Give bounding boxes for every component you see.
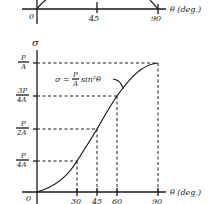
y-label-3P4A: 3P 4A [16, 87, 29, 104]
top-origin-label: 0 [29, 12, 34, 21]
top-panel: 0 45 90 θ (deg.) [22, 0, 201, 24]
y-label-P4A-num: P [20, 152, 26, 160]
x-label-45: 45 [91, 197, 102, 204]
y-label-3P4A-den: 4A [16, 96, 27, 104]
x-label-90: 90 [152, 197, 162, 204]
bottom-panel: σ σ = P A sin²θ P [16, 37, 201, 204]
y-label-PA: P A [18, 54, 29, 71]
top-curve-right [150, 0, 158, 9]
equation-rhs: sin²θ [81, 75, 101, 84]
y-label-P4A: P 4A [16, 152, 29, 169]
top-x45-label: 45 [88, 14, 99, 23]
equation-frac-den: A [72, 80, 78, 88]
y-label-P2A: P 2A [16, 120, 29, 137]
y-axis-label-sigma: σ [32, 37, 40, 48]
y-label-PA-num: P [20, 54, 26, 62]
top-x90-label: 90 [151, 14, 161, 23]
equation-annotation: σ = P A sin²θ [55, 71, 124, 88]
equation-leader-line [113, 79, 124, 88]
y-label-PA-den: A [20, 63, 26, 71]
y-label-P4A-den: 4A [16, 161, 27, 169]
y-label-3P4A-num: 3P [18, 87, 27, 95]
y-label-P2A-den: 2A [16, 129, 27, 137]
stress-chart: 0 45 90 θ (deg.) σ σ = P [0, 0, 211, 204]
top-curve-left [37, 0, 46, 9]
x-label-origin: 0 [26, 194, 31, 203]
x-label-30: 30 [71, 197, 81, 204]
x-label-60: 60 [112, 197, 122, 204]
top-x-axis-label: θ (deg.) [170, 5, 201, 14]
y-label-P2A-num: P [20, 120, 26, 128]
equation-lhs: σ = [55, 75, 70, 84]
equation-frac-num: P [72, 71, 78, 79]
x-axis-label: θ (deg.) [170, 188, 201, 197]
